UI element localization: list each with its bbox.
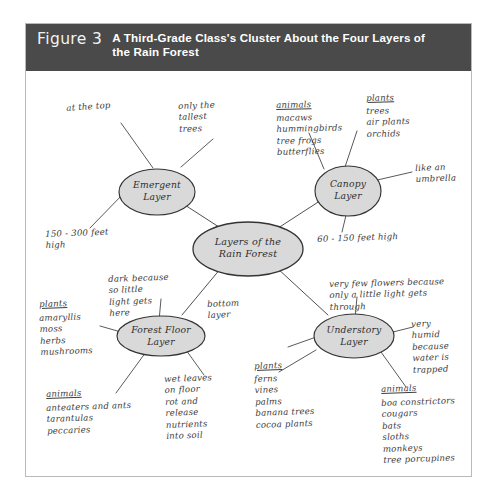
- center-ellipse[interactable]: [193, 222, 303, 276]
- note-forest-animals-header: animals: [46, 388, 82, 401]
- note-dark-because: dark because so little light gets here: [108, 272, 170, 320]
- canopy-layer-ellipse[interactable]: [315, 166, 381, 216]
- note-understory-animals-header: animals: [381, 383, 417, 396]
- note-only-tallest-trees: only the tallest trees: [178, 100, 216, 136]
- note-forest-plants-list: amaryllis moss herbs mushrooms: [39, 311, 93, 359]
- note-forest-plants-header: plants: [39, 298, 67, 310]
- note-height-150-300: 150 - 300 feet high: [45, 227, 109, 252]
- understory-layer-ellipse[interactable]: [314, 314, 394, 358]
- note-canopy-plants-list: trees air plants orchids: [366, 105, 410, 140]
- note-like-an-umbrella: like an umbrella: [415, 162, 456, 186]
- note-canopy-animals-list: macaws hummingbirds tree frogs butterfli…: [276, 111, 343, 158]
- note-canopy-animals-header: animals: [276, 99, 312, 111]
- note-wet-leaves: wet leaves on floor rot and release nutr…: [164, 372, 214, 442]
- note-very-few-flowers: very few flowers because only a little l…: [329, 276, 445, 313]
- note-understory-plants-list: ferns vines palms banana trees cocoa pla…: [254, 372, 315, 431]
- figure-page: Figure 3 A Third-Grade Class's Cluster A…: [0, 0, 496, 495]
- note-very-humid: very humid because water is trapped: [411, 318, 450, 376]
- note-forest-animals-list: anteaters and ants tarantulas peccaries: [46, 400, 132, 437]
- figure-header: Figure 3 A Third-Grade Class's Cluster A…: [26, 24, 471, 71]
- forest-floor-layer-ellipse[interactable]: [117, 316, 205, 356]
- figure-number-label: Figure 3: [37, 31, 112, 48]
- figure-caption: A Third-Grade Class's Cluster About the …: [112, 31, 442, 60]
- emergent-layer-ellipse[interactable]: [119, 169, 195, 215]
- bubble-shapes: [117, 166, 394, 358]
- note-understory-animals-list: boa constrictors cougars bats sloths mon…: [381, 395, 457, 466]
- figure-frame: Figure 3 A Third-Grade Class's Cluster A…: [25, 23, 472, 477]
- note-canopy-plants-header: plants: [366, 92, 394, 104]
- cluster-diagram: Emergent Layer Canopy Layer Layers of th…: [26, 71, 471, 476]
- note-understory-plants-header: plants: [254, 360, 282, 372]
- note-bottom-layer: bottom layer: [207, 298, 240, 322]
